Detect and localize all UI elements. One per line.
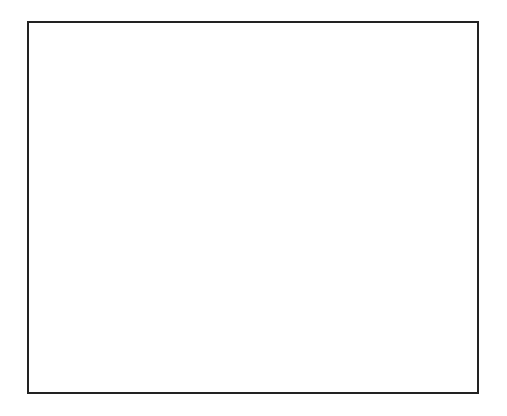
bar-chart xyxy=(0,0,507,416)
